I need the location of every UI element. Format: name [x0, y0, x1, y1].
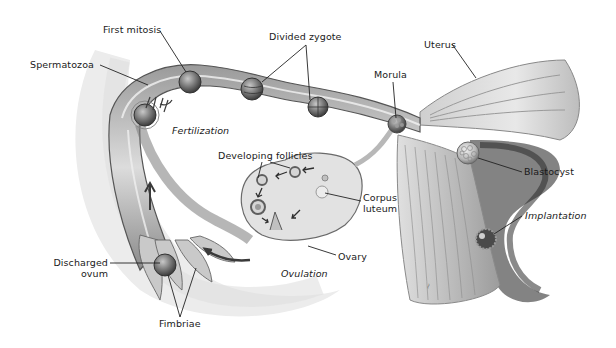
label-corpus-luteum-line2: luteum — [363, 203, 397, 214]
label-discharged-ovum-line2: ovum — [50, 268, 108, 279]
label-blastocyst: Blastocyst — [524, 166, 574, 177]
first-mitosis-cell — [179, 71, 201, 93]
label-fimbriae: Fimbriae — [159, 318, 201, 329]
uterus-body — [397, 60, 579, 304]
label-fertilization: Fertilization — [172, 125, 229, 136]
label-implantation: Implantation — [525, 210, 587, 221]
implanted-blastocyst — [476, 229, 496, 249]
follicle — [290, 167, 300, 177]
label-uterus: Uterus — [424, 39, 456, 50]
corpus-luteum — [316, 186, 328, 198]
discharged-ovum — [154, 254, 176, 276]
label-corpus-luteum: Corpus luteum — [363, 192, 397, 214]
fertilized-ovum — [134, 104, 156, 126]
divided-zygote-cell-1 — [241, 78, 263, 100]
label-ovary: Ovary — [338, 251, 367, 262]
label-first-mitosis: First mitosis — [103, 24, 161, 35]
reproductive-diagram: ~ First mitosis Spermatozoa Divided zygo… — [0, 0, 616, 348]
label-discharged-ovum-line1: Discharged — [50, 257, 108, 268]
label-developing-follicles: Developing follicles — [218, 150, 313, 161]
label-corpus-luteum-line1: Corpus — [363, 192, 397, 203]
label-discharged-ovum: Discharged ovum — [50, 257, 108, 279]
label-spermatozoa: Spermatozoa — [30, 59, 94, 70]
label-divided-zygote: Divided zygote — [269, 31, 342, 42]
label-morula: Morula — [374, 69, 407, 80]
label-ovulation: Ovulation — [281, 268, 328, 279]
